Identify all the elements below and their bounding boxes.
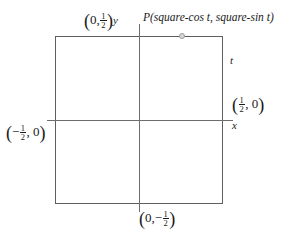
y-axis-label: y xyxy=(113,14,118,26)
x-axis xyxy=(47,120,233,121)
fraction-denominator: 2 xyxy=(239,105,245,114)
label-left-vertex: (−12, 0) xyxy=(6,124,46,143)
label-point-p: P(square-cos t, square-sin t) xyxy=(143,12,274,24)
minus-sign: − xyxy=(12,124,19,139)
label-parameter-t: t xyxy=(230,55,233,66)
bottom-vertex-zero: 0, xyxy=(145,210,155,225)
x-axis-label: x xyxy=(232,120,237,131)
paren-close: ) xyxy=(40,123,46,143)
fraction-one-half: 12 xyxy=(163,210,169,229)
right-vertex-zero: , 0 xyxy=(245,96,258,111)
paren-close: ) xyxy=(258,95,264,115)
top-vertex-zero: 0, xyxy=(90,12,100,27)
minus-sign: − xyxy=(155,210,162,225)
fraction-denominator: 2 xyxy=(100,21,106,30)
fraction-one-half: 12 xyxy=(100,12,106,31)
label-top-vertex: (0,12)y xyxy=(84,12,118,31)
fraction-one-half: 12 xyxy=(20,124,26,143)
figure-canvas: (0,12)y P(square-cos t, square-sin t) t … xyxy=(0,0,306,238)
paren-open: ( xyxy=(232,95,238,115)
fraction-denominator: 2 xyxy=(163,219,169,228)
label-right-vertex: (12, 0) xyxy=(232,96,264,115)
left-vertex-zero: , 0 xyxy=(27,124,40,139)
paren-close: ) xyxy=(107,11,113,31)
label-bottom-vertex: (0,−12) xyxy=(139,210,175,229)
y-axis xyxy=(139,24,140,212)
point-p-marker xyxy=(179,33,185,39)
fraction-one-half: 12 xyxy=(239,96,245,115)
paren-open: ( xyxy=(6,123,12,143)
paren-open: ( xyxy=(139,209,145,229)
paren-open: ( xyxy=(84,11,90,31)
fraction-denominator: 2 xyxy=(20,133,26,142)
paren-close: ) xyxy=(169,209,175,229)
